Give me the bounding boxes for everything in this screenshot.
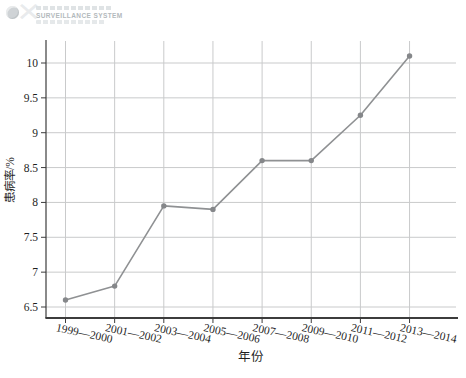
prevalence-line-chart: 6.577.588.599.5101999—20002001—20022003—… bbox=[0, 0, 466, 378]
data-point bbox=[112, 283, 117, 288]
data-point bbox=[309, 158, 314, 163]
y-tick-label: 7.5 bbox=[24, 231, 39, 243]
series-layer bbox=[63, 53, 412, 302]
y-tick-label: 9 bbox=[32, 127, 38, 139]
data-point bbox=[210, 207, 215, 212]
y-tick-label: 10 bbox=[27, 57, 39, 69]
chart-page: ✕ SURVEILLANCE SYSTEM 6.577.588.599.5101… bbox=[0, 0, 466, 378]
y-tick-label: 7 bbox=[32, 266, 38, 278]
y-axis-title: 患病率/% bbox=[3, 157, 16, 203]
data-point bbox=[407, 53, 412, 58]
data-point bbox=[259, 158, 264, 163]
grid-layer bbox=[46, 41, 456, 318]
axis-layer: 6.577.588.599.5101999—20002001—20022003—… bbox=[24, 40, 458, 345]
data-point bbox=[63, 297, 68, 302]
y-tick-label: 9.5 bbox=[24, 92, 39, 104]
data-point bbox=[358, 113, 363, 118]
trend-line bbox=[66, 56, 410, 300]
data-point bbox=[161, 203, 166, 208]
x-tick-label: 2013—2014 bbox=[399, 321, 458, 345]
y-tick-label: 6.5 bbox=[24, 301, 39, 313]
y-tick-label: 8.5 bbox=[24, 162, 39, 174]
x-axis-title: 年份 bbox=[238, 350, 264, 364]
y-tick-label: 8 bbox=[32, 196, 38, 208]
